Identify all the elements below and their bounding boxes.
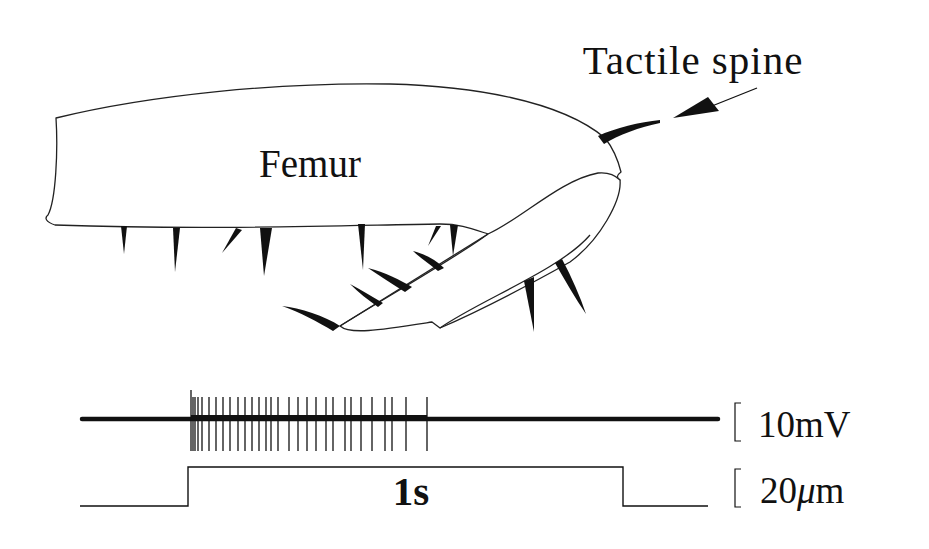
femur-drawing: [46, 84, 660, 332]
spine: [450, 225, 458, 256]
spine: [173, 228, 180, 272]
figure-canvas: Femur Tactile spine 10mV 20μm 1s: [0, 0, 929, 549]
spine: [222, 228, 242, 253]
displacement-unit: m: [816, 470, 845, 511]
spine: [121, 226, 127, 254]
displacement-scale-label: 20μm: [760, 470, 845, 511]
tactile-spine-arrow: [673, 88, 757, 118]
spine: [428, 226, 441, 246]
spine: [413, 251, 444, 271]
recording-trace: [82, 390, 718, 451]
spine: [368, 268, 412, 292]
displacement-value: 20: [760, 470, 797, 511]
spine: [555, 259, 586, 314]
micro-symbol: μ: [796, 470, 816, 511]
spine: [282, 306, 340, 331]
spine: [260, 228, 272, 276]
spine: [524, 277, 534, 332]
time-scale-label: 1s: [393, 468, 429, 514]
tactile-spine-label: Tactile spine: [583, 37, 804, 83]
displacement-scale-bar: [735, 469, 741, 507]
tactile-spine: [598, 120, 660, 144]
spine: [350, 284, 383, 307]
voltage-scale-label: 10mV: [758, 404, 851, 445]
voltage-scale-bar: [735, 403, 741, 441]
femur-label: Femur: [259, 142, 361, 185]
spine: [358, 224, 365, 270]
